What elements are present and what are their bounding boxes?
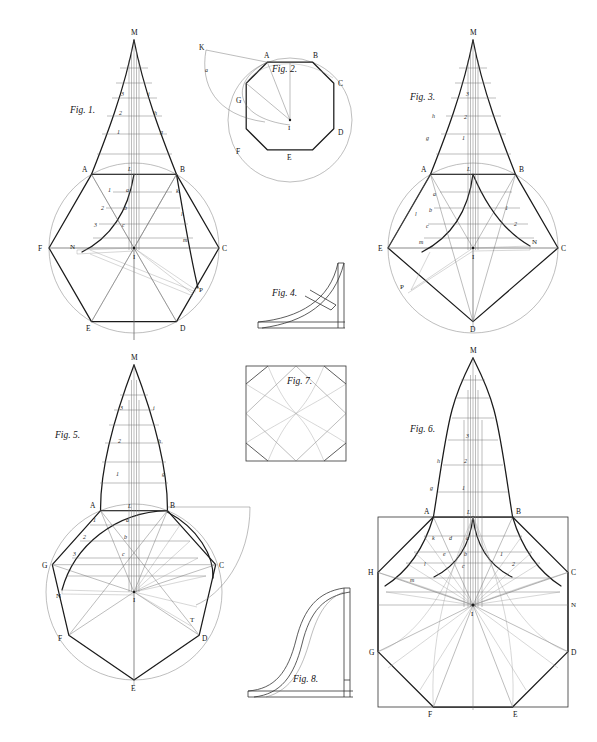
fig2-center-dot (289, 119, 291, 121)
fig1-inner-b: b (124, 205, 127, 211)
fig6-label-A: A (424, 507, 430, 516)
fig6-inner-e: e (443, 551, 446, 557)
fig1-center-dot (133, 247, 136, 250)
fig1-label-F: F (38, 244, 42, 253)
fig3-inner-b: b (429, 207, 432, 213)
fig5-label-G: G (42, 561, 48, 570)
fig2-label-K: K (199, 43, 205, 52)
fig1-label-A: A (82, 165, 88, 174)
fig6-label-M: M (470, 346, 477, 355)
fig5-label-N: N (56, 592, 61, 600)
fig3-center-dot (472, 247, 475, 250)
fig2-label-C: C (338, 79, 343, 88)
fig6-inner-c: c (462, 563, 465, 569)
fig3-label-B: B (519, 165, 524, 174)
plate-canvas: Fig. 1. M A B C D E F I N P L 3 2 1 i h … (0, 0, 597, 742)
fig2-caption: Fig. 2. (271, 64, 297, 74)
fig1-label-E: E (86, 324, 91, 333)
fig1-num-3: 3 (120, 91, 124, 97)
fig6-inner-num-1: 1 (500, 551, 503, 557)
fig3-label-D: D (470, 325, 476, 334)
fig6-num-2: 2 (464, 458, 467, 464)
fig2-label-F: F (236, 147, 240, 156)
fig5-letter-h: h (158, 438, 161, 444)
fig1-inner-a: a (126, 187, 129, 193)
fig1-inner-num-1: 1 (108, 187, 111, 193)
fig1-num-1: 1 (117, 129, 120, 135)
fig5-inner-num-3: 3 (72, 551, 76, 557)
fig3-num-3: 3 (465, 91, 469, 97)
fig3-label-A: A (421, 165, 427, 174)
fig2-label-A: A (264, 51, 270, 60)
fig6-center-dot (471, 603, 474, 606)
fig5-label-F: F (58, 634, 62, 643)
fig3-label-N: N (532, 238, 537, 246)
fig3-letter-h: h (432, 113, 435, 119)
fig6-label-C: C (571, 568, 576, 577)
fig8-caption: Fig. 8. (292, 674, 318, 684)
fig1-label-N: N (70, 243, 75, 251)
fig5-inner-num-1: 1 (93, 517, 96, 523)
fig4-caption: Fig. 4. (271, 288, 297, 298)
fig6-inner-m: m (410, 577, 415, 583)
fig3-inner-num-2: 2 (514, 221, 517, 227)
fig5-caption: Fig. 5. (54, 430, 80, 440)
fig5-label-M: M (131, 353, 138, 362)
fig1-label-C: C (222, 244, 227, 253)
fig5-num-1: 1 (116, 471, 119, 477)
fig2-label-G: G (236, 96, 242, 105)
fig5-label-B: B (170, 501, 175, 510)
fig6-inner-k: k (432, 535, 435, 541)
fig1-letter-m: m (183, 237, 188, 243)
fig1-inner-num-2: 2 (101, 205, 104, 211)
fig3-label-C: C (561, 244, 566, 253)
fig5-inner-c: c (122, 551, 125, 557)
fig6-inner-num-2: 2 (512, 561, 515, 567)
fig5-label-D: D (202, 634, 208, 643)
fig3-num-1: 1 (462, 135, 465, 141)
fig6-label-E: E (513, 710, 518, 719)
fig5-num-3: 3 (119, 405, 123, 411)
fig6-letter-h: h (437, 458, 440, 464)
fig5-label-A: A (90, 501, 96, 510)
fig6-label-L: L (466, 509, 471, 515)
fig5-num-2: 2 (118, 438, 121, 444)
fig2-arc-letter: a (205, 67, 208, 73)
fig6-num-3: 3 (465, 433, 469, 439)
fig1-label-B: B (180, 165, 185, 174)
fig1-inner-c: c (122, 222, 125, 228)
fig6-num-1: 1 (462, 485, 465, 491)
fig5-label-L: L (127, 503, 132, 509)
fig6-inner-b: b (464, 551, 467, 557)
engraving-plate: Fig. 1. M A B C D E F I N P L 3 2 1 i h … (0, 0, 597, 742)
fig5-inner-b: b (124, 534, 127, 540)
fig5-letter-g: g (162, 471, 165, 477)
fig3-label-M: M (470, 28, 477, 37)
fig2-label-B: B (313, 51, 318, 60)
fig5-inner-a: a (126, 517, 129, 523)
fig3-num-2: 2 (464, 114, 467, 120)
fig7-caption: Fig. 7. (286, 376, 312, 386)
fig1-label-M: M (131, 28, 138, 37)
fig3-inner-a: a (433, 191, 436, 197)
fig5-label-C: C (219, 561, 224, 570)
fig6-label-G: G (369, 648, 375, 657)
fig6-letter-g: g (430, 485, 433, 491)
fig1-caption: Fig. 1. (69, 105, 95, 115)
fig6-label-B: B (516, 507, 521, 516)
fig3-label-E: E (378, 244, 383, 253)
fig6-label-N: N (571, 601, 576, 609)
fig1-letter-k: k (176, 188, 179, 194)
fig3-caption: Fig. 3. (409, 92, 435, 102)
fig5-inner-num-2: 2 (83, 534, 86, 540)
fig6-label-D: D (571, 648, 577, 657)
fig6-inner-a: a (466, 535, 469, 541)
fig6-label-F: F (428, 710, 432, 719)
fig3-letter-g: g (426, 135, 429, 141)
fig1-inner-num-3: 3 (93, 222, 97, 228)
fig3-label-P: P (400, 283, 404, 291)
fig3-inner-num-1: 1 (505, 205, 508, 211)
fig1-label-P: P (199, 286, 203, 294)
fig5-label-T: T (190, 616, 195, 624)
fig6-caption: Fig. 6. (409, 424, 435, 434)
